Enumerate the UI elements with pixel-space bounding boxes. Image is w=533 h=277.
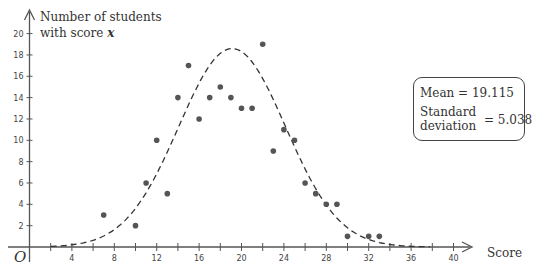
data-point <box>186 63 192 69</box>
data-point <box>249 105 255 111</box>
y-tick-label: 8 <box>18 158 23 167</box>
origin-label: O <box>14 248 26 266</box>
data-point <box>143 180 149 186</box>
data-point <box>218 84 224 90</box>
x-tick-label: 24 <box>279 254 289 263</box>
data-point <box>324 202 330 208</box>
y-axis-title-line1: Number of students <box>40 10 162 24</box>
x-axis-title: Score <box>487 246 522 260</box>
data-point <box>101 212 107 218</box>
x-tick-label: 32 <box>364 254 374 263</box>
data-point <box>281 127 287 133</box>
x-tick-label: 40 <box>448 254 458 263</box>
x-tick-label: 36 <box>406 254 416 263</box>
normal-curve <box>51 49 431 247</box>
x-tick-label: 20 <box>236 254 246 263</box>
normal-curve-line <box>51 49 431 247</box>
y-tick-label: 16 <box>13 72 23 81</box>
data-point <box>260 41 266 47</box>
data-point <box>207 95 213 101</box>
axes <box>8 10 472 262</box>
std-value: = 5.038 <box>484 113 532 127</box>
mean-text: Mean = 19.115 <box>420 86 514 100</box>
x-tick-label: 8 <box>112 254 117 263</box>
stats-box: Mean = 19.115 Standard deviation = 5.038 <box>413 77 525 141</box>
y-tick-label: 4 <box>18 200 23 209</box>
y-axis-title-line2: with score x <box>40 26 115 40</box>
y-tick-label: 12 <box>13 115 23 124</box>
x-tick-label: 12 <box>152 254 162 263</box>
x-tick-label: 28 <box>321 254 331 263</box>
y-tick-label: 2 <box>18 222 23 231</box>
data-point <box>228 95 234 101</box>
y-tick-label: 14 <box>13 94 23 103</box>
y-tick-label: 18 <box>13 51 23 60</box>
data-point <box>345 234 351 240</box>
data-point <box>271 148 277 154</box>
data-points <box>101 41 382 239</box>
data-point <box>239 105 245 111</box>
data-point <box>377 234 383 240</box>
y-tick-label: 10 <box>13 136 23 145</box>
y-tick-label: 20 <box>13 30 23 39</box>
x-tick-label: 16 <box>194 254 204 263</box>
data-point <box>292 138 298 144</box>
x-tick-label: 4 <box>69 254 74 263</box>
data-point <box>366 234 372 240</box>
data-point <box>313 191 319 197</box>
data-point <box>302 180 308 186</box>
std-label: Standard deviation <box>420 105 490 133</box>
data-point <box>154 138 160 144</box>
axis-ticks: 4812162024283236402468101214161820 <box>13 30 458 263</box>
data-point <box>175 95 181 101</box>
data-point <box>133 223 139 229</box>
data-point <box>165 191 171 197</box>
y-tick-label: 6 <box>18 179 23 188</box>
data-point <box>196 116 202 122</box>
data-point <box>334 202 340 208</box>
